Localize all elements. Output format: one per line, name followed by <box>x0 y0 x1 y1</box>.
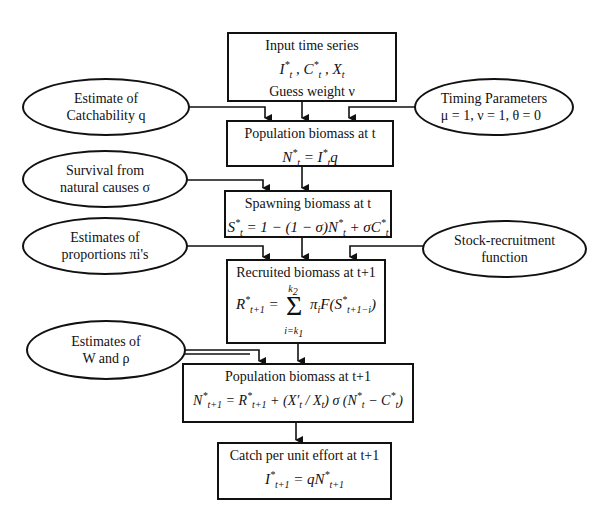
stock-recruit-line2: function <box>454 249 555 266</box>
pop-t-title: Population biomass at t <box>228 125 392 142</box>
catchability-line1: Estimate of <box>67 90 146 107</box>
timing-parameters-ellipse: Timing Parameters μ = 1, ν = 1, θ = 0 <box>414 78 574 136</box>
survival-line1: Survival from <box>60 162 150 179</box>
stock-recruitment-ellipse: Stock-recruitment function <box>422 220 587 278</box>
catchability-line2: Catchability q <box>67 107 146 124</box>
recruit-title: Recruited biomass at t+1 <box>228 264 384 281</box>
timing-line2: μ = 1, ν = 1, θ = 0 <box>441 107 547 124</box>
survival-line2: natural causes σ <box>60 179 150 196</box>
population-biomass-t1-box: Population biomass at t+1 N*t+1 = R*t+1 … <box>182 363 414 423</box>
input-time-series-box: Input time series I*t , C*t , Xt Guess w… <box>227 32 397 102</box>
catchability-ellipse: Estimate of Catchability q <box>22 78 190 136</box>
pop-t-equation: N*t = I*tq <box>228 144 392 171</box>
cpue-title: Catch per unit effort at t+1 <box>219 447 390 464</box>
pop-t1-equation: N*t+1 = R*t+1 + (X′t / Xt) σ (N*t − C*t) <box>184 387 412 413</box>
cpue-equation: I*t+1 = qN*t+1 <box>219 466 390 493</box>
recruited-biomass-box: Recruited biomass at t+1 R*t+1 = k2 Σ i=… <box>226 259 386 344</box>
stock-recruit-line1: Stock-recruitment <box>454 232 555 249</box>
spawn-title: Spawning biomass at t <box>226 195 390 212</box>
spawning-biomass-box: Spawning biomass at t S*t = 1 − (1 − σ)N… <box>224 190 392 238</box>
input-series-equation: I*t , C*t , Xt <box>229 56 395 83</box>
proportions-ellipse: Estimates of proportions πi's <box>22 217 188 275</box>
input-guess-weight: Guess weight ν <box>269 84 355 99</box>
population-biomass-t-box: Population biomass at t N*t = I*tq <box>226 120 394 167</box>
pop-t1-title: Population biomass at t+1 <box>184 368 412 385</box>
proportions-line2: proportions πi's <box>62 246 149 263</box>
timing-line1: Timing Parameters <box>441 90 547 107</box>
w-rho-line2: W and ρ <box>71 350 141 367</box>
spawn-equation: S*t = 1 − (1 − σ)N*t + σC*t <box>226 214 390 241</box>
input-title: Input time series <box>229 37 395 54</box>
proportions-line1: Estimates of <box>62 229 149 246</box>
w-rho-line1: Estimates of <box>71 333 141 350</box>
cpue-box: Catch per unit effort at t+1 I*t+1 = qN*… <box>217 442 392 500</box>
w-rho-ellipse: Estimates of W and ρ <box>26 320 186 380</box>
recruit-equation: R*t+1 = k2 Σ i=k1 πiF(S*t+1−i) <box>228 291 384 318</box>
survival-ellipse: Survival from natural causes σ <box>22 150 188 208</box>
